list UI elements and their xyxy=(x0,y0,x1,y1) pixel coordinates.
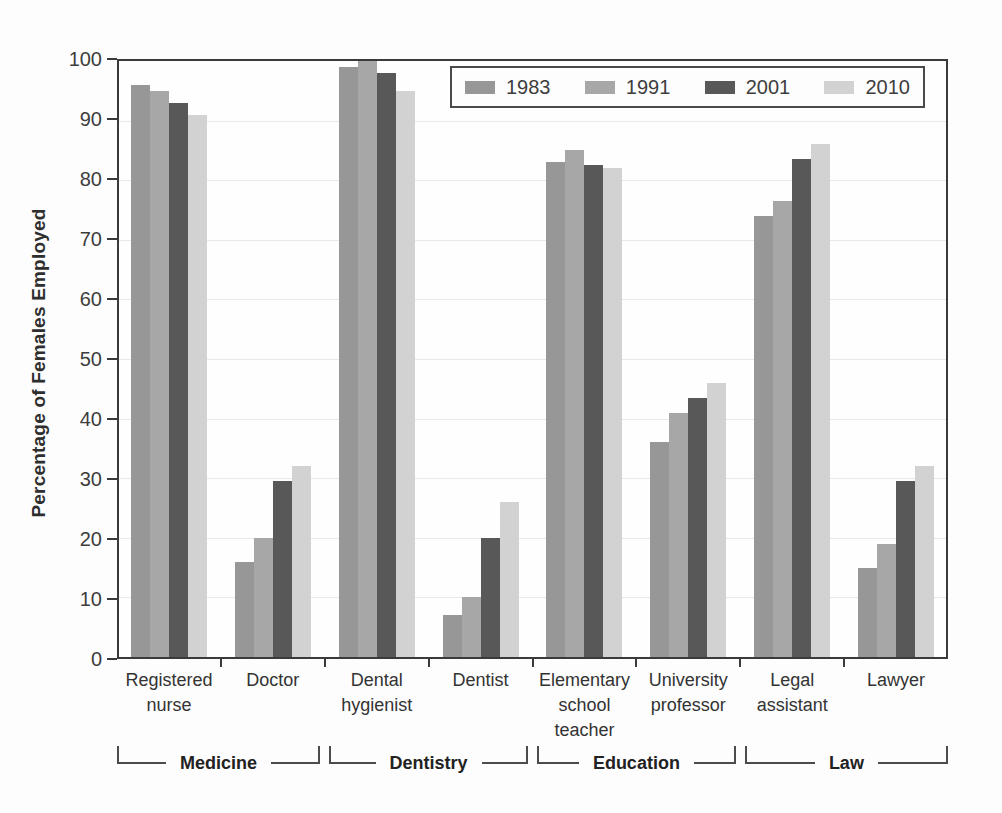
legend-swatch-2010 xyxy=(824,81,854,94)
bar-doctor-1991 xyxy=(254,538,273,657)
bracket-line-right xyxy=(694,762,734,764)
bar-doctor-2010 xyxy=(292,466,311,657)
y-tick-80 xyxy=(107,178,117,180)
bracket-line-left xyxy=(747,762,815,764)
group-label-medicine: Medicine xyxy=(180,753,257,773)
legend-item-2010: 2010 xyxy=(824,76,910,99)
legend: 1983199120012010 xyxy=(450,66,925,108)
x-category-label-legal-assistant: Legal assistant xyxy=(757,668,828,718)
y-tick-label-70: 70 xyxy=(40,228,102,250)
legend-swatch-1983 xyxy=(465,81,495,94)
bar-dentist-1983 xyxy=(443,615,462,657)
group-label-law: Law xyxy=(829,753,864,773)
y-tick-label-20: 20 xyxy=(40,528,102,550)
grouped-bar-chart: Percentage of Females Employed 198319912… xyxy=(0,0,1002,813)
bracket-line-right xyxy=(878,762,946,764)
legend-swatch-1991 xyxy=(585,81,615,94)
legend-label-1983: 1983 xyxy=(506,76,551,99)
bar-lawyer-1991 xyxy=(877,544,896,657)
y-tick-0 xyxy=(107,658,117,660)
bar-doctor-2001 xyxy=(273,481,292,657)
bar-doctor-1983 xyxy=(235,562,254,657)
bar-dental-hygienist-2010 xyxy=(396,91,415,657)
y-tick-100 xyxy=(107,58,117,60)
bracket-line-right xyxy=(271,762,318,764)
bar-registered-nurse-2001 xyxy=(169,103,188,657)
legend-swatch-2001 xyxy=(705,81,735,94)
legend-item-1991: 1991 xyxy=(585,76,671,99)
bracket-line-left xyxy=(331,762,375,764)
y-tick-10 xyxy=(107,598,117,600)
bar-registered-nurse-1983 xyxy=(131,85,150,657)
bar-legal-assistant-2010 xyxy=(811,144,830,657)
x-tick-5 xyxy=(635,659,637,667)
y-tick-60 xyxy=(107,298,117,300)
bar-dental-hygienist-2001 xyxy=(377,73,396,657)
bar-registered-nurse-2010 xyxy=(188,115,207,657)
bar-lawyer-1983 xyxy=(858,568,877,657)
y-tick-label-90: 90 xyxy=(40,108,102,130)
x-category-label-registered-nurse: Registered nurse xyxy=(125,668,212,718)
y-tick-label-60: 60 xyxy=(40,288,102,310)
bar-lawyer-2001 xyxy=(896,481,915,657)
y-tick-30 xyxy=(107,478,117,480)
bar-registered-nurse-1991 xyxy=(150,91,169,657)
y-tick-90 xyxy=(107,118,117,120)
y-tick-label-40: 40 xyxy=(40,408,102,430)
bar-university-professor-2010 xyxy=(707,383,726,657)
bar-dentist-2010 xyxy=(500,502,519,657)
bar-legal-assistant-2001 xyxy=(792,159,811,657)
bar-university-professor-1991 xyxy=(669,413,688,657)
bar-dental-hygienist-1991 xyxy=(358,61,377,657)
bar-legal-assistant-1983 xyxy=(754,216,773,657)
x-tick-2 xyxy=(324,659,326,667)
x-category-label-dentist: Dentist xyxy=(453,668,509,693)
y-tick-label-50: 50 xyxy=(40,348,102,370)
bar-elementary-school-teacher-1983 xyxy=(546,162,565,657)
bracket-line-right xyxy=(482,762,526,764)
y-tick-label-100: 100 xyxy=(40,48,102,70)
y-tick-label-80: 80 xyxy=(40,168,102,190)
bar-dentist-1991 xyxy=(462,597,481,657)
y-tick-70 xyxy=(107,238,117,240)
legend-label-2001: 2001 xyxy=(746,76,791,99)
x-category-label-doctor: Doctor xyxy=(246,668,299,693)
legend-item-1983: 1983 xyxy=(465,76,551,99)
x-category-label-dental-hygienist: Dental hygienist xyxy=(341,668,412,718)
bar-dentist-2001 xyxy=(481,538,500,657)
bar-elementary-school-teacher-1991 xyxy=(565,150,584,657)
bar-legal-assistant-1991 xyxy=(773,201,792,657)
x-tick-6 xyxy=(739,659,741,667)
bar-lawyer-2010 xyxy=(915,466,934,657)
x-tick-4 xyxy=(532,659,534,667)
y-tick-label-0: 0 xyxy=(40,648,102,670)
gridline-90 xyxy=(119,121,946,122)
bar-dental-hygienist-1983 xyxy=(339,67,358,657)
group-bracket-medicine: Medicine xyxy=(117,746,320,764)
y-tick-label-30: 30 xyxy=(40,468,102,490)
legend-label-1991: 1991 xyxy=(626,76,671,99)
x-category-label-lawyer: Lawyer xyxy=(867,668,925,693)
bar-university-professor-2001 xyxy=(688,398,707,657)
group-label-education: Education xyxy=(593,753,680,773)
group-bracket-dentistry: Dentistry xyxy=(329,746,528,764)
bar-elementary-school-teacher-2001 xyxy=(584,165,603,657)
bracket-line-left xyxy=(119,762,166,764)
bar-university-professor-1983 xyxy=(650,442,669,657)
x-tick-7 xyxy=(843,659,845,667)
y-tick-label-10: 10 xyxy=(40,588,102,610)
x-tick-1 xyxy=(220,659,222,667)
y-tick-50 xyxy=(107,358,117,360)
bracket-line-left xyxy=(539,762,579,764)
y-tick-20 xyxy=(107,538,117,540)
group-bracket-law: Law xyxy=(745,746,948,764)
group-label-dentistry: Dentistry xyxy=(390,753,468,773)
x-category-label-elementary-school-teacher: Elementary school teacher xyxy=(539,668,630,743)
plot-area: 1983199120012010 xyxy=(117,59,948,659)
bar-elementary-school-teacher-2010 xyxy=(603,168,622,657)
x-tick-3 xyxy=(428,659,430,667)
y-tick-40 xyxy=(107,418,117,420)
x-category-label-university-professor: University professor xyxy=(649,668,728,718)
group-bracket-education: Education xyxy=(537,746,736,764)
legend-item-2001: 2001 xyxy=(705,76,791,99)
